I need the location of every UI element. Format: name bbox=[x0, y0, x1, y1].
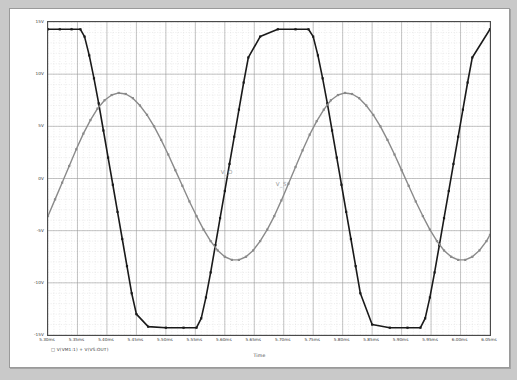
y-tick-label: -5V bbox=[14, 227, 44, 232]
x-tick-label: 6.05ms bbox=[469, 337, 509, 342]
y-tick-label: -15V bbox=[14, 332, 44, 337]
y-tick-label: 10V bbox=[14, 71, 44, 76]
x-axis-title: Time bbox=[10, 353, 509, 358]
screenshot-root: 15V10V5V0V-5V-10V-15V 5.30ms5.35ms5.40ms… bbox=[0, 0, 517, 380]
trace-label-v-o: V_O bbox=[221, 169, 233, 175]
trace-legend[interactable]: □ V(VM1:1) + V(VS:OUT) bbox=[51, 347, 108, 352]
y-tick-label: 0V bbox=[14, 175, 44, 180]
plot-frame bbox=[47, 21, 491, 336]
y-tick-label: -10V bbox=[14, 279, 44, 284]
data-layer bbox=[48, 22, 490, 335]
y-tick-label: 5V bbox=[14, 123, 44, 128]
plot-window: 15V10V5V0V-5V-10V-15V 5.30ms5.35ms5.40ms… bbox=[9, 8, 510, 368]
y-tick-label: 15V bbox=[14, 19, 44, 24]
trace-label-v-s: V_S bbox=[276, 181, 287, 187]
